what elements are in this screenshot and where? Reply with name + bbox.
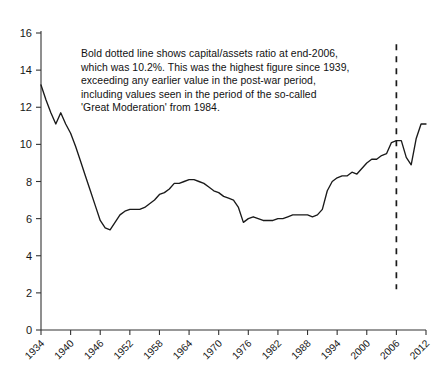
x-tick-label: 1982 (260, 337, 284, 361)
y-tick-label: 6 (26, 213, 32, 225)
y-tick-label: 4 (26, 250, 32, 262)
x-tick-label: 2012 (408, 337, 432, 361)
x-tick-label: 1988 (289, 337, 313, 361)
capital-assets-note: Bold dotted line shows capital/assets ra… (81, 47, 381, 115)
x-tick-label: 1970 (200, 337, 224, 361)
y-tick-label: 12 (20, 101, 32, 113)
x-tick-label: 2006 (378, 337, 402, 361)
y-axis-ticks: 0246810121416 (20, 27, 41, 336)
y-tick-label: 10 (20, 138, 32, 150)
x-tick-label: 1934 (23, 337, 47, 361)
x-axis: 1934194019461952195819641970197619821988… (23, 330, 432, 361)
y-tick-label: 8 (26, 176, 32, 188)
y-tick-label: 0 (26, 324, 32, 336)
x-tick-label: 1958 (141, 337, 165, 361)
y-tick-label: 14 (20, 64, 32, 76)
x-tick-label: 1976 (230, 337, 254, 361)
x-tick-label: 1946 (82, 337, 106, 361)
x-tick-label: 1994 (319, 337, 343, 361)
y-tick-label: 2 (26, 287, 32, 299)
x-tick-label: 1940 (52, 337, 76, 361)
chart-container: 0246810121416 19341940194619521958196419… (0, 0, 440, 383)
y-axis: 0246810121416 (20, 27, 41, 336)
x-axis-ticks: 1934194019461952195819641970197619821988… (23, 330, 432, 361)
x-tick-label: 1952 (111, 337, 135, 361)
x-tick-label: 1964 (171, 337, 195, 361)
x-tick-label: 2000 (348, 337, 372, 361)
y-tick-label: 16 (20, 27, 32, 39)
